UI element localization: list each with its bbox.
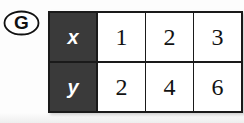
row-header-x: x [49, 12, 97, 62]
item-letter: G [3, 10, 40, 36]
item-marker-g: G [3, 10, 40, 36]
cell-y-1: 2 [97, 62, 146, 112]
table-row: x 1 2 3 [49, 12, 242, 62]
cell-y-3: 6 [194, 62, 243, 112]
table-row: y 2 4 6 [49, 62, 242, 112]
scan-edge-shading [0, 113, 244, 123]
row-header-y: y [49, 62, 97, 112]
cell-x-3: 3 [194, 12, 243, 62]
cell-y-2: 4 [146, 62, 194, 112]
worksheet-page: G x 1 2 3 y 2 4 6 [0, 0, 244, 123]
xy-value-table: x 1 2 3 y 2 4 6 [48, 11, 243, 113]
cell-x-2: 2 [146, 12, 194, 62]
cell-x-1: 1 [97, 12, 146, 62]
